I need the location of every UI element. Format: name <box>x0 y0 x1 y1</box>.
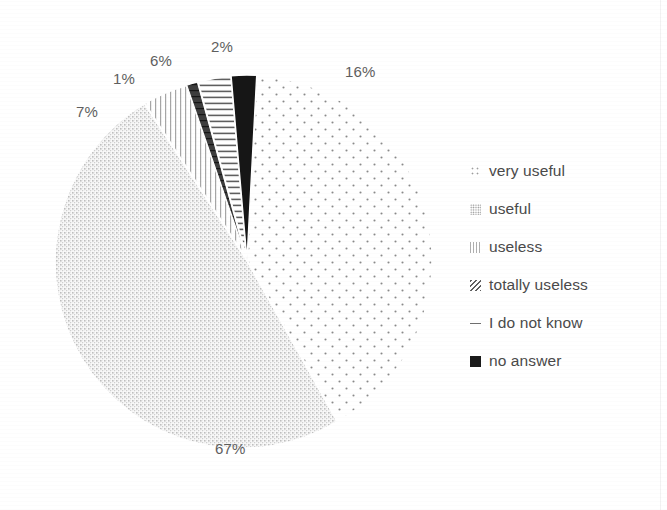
data-label-useless: 7% <box>76 103 98 120</box>
legend-label-very-useful: very useful <box>489 162 565 180</box>
solid-black-swatch-icon <box>470 356 481 367</box>
legend-item-useful: useful <box>470 190 660 228</box>
legend-label-no-answer: no answer <box>489 352 561 370</box>
legend-item-i-do-not-know: I do not know <box>470 304 660 342</box>
diagonal-dark-swatch-icon <box>470 280 481 291</box>
chart-legend: very useful useful useless totally usele… <box>470 152 660 380</box>
data-label-useful: 67% <box>215 440 246 457</box>
dash-line-swatch-icon <box>470 318 481 329</box>
legend-label-totally-useless: totally useless <box>489 276 588 294</box>
pie-chart-figure: 16% 67% 7% 1% 6% 2% very useful useful u… <box>0 0 667 510</box>
legend-item-totally-useless: totally useless <box>470 266 660 304</box>
fine-dots-swatch-icon <box>470 204 481 215</box>
legend-item-very-useful: very useful <box>470 152 660 190</box>
legend-item-useless: useless <box>470 228 660 266</box>
vertical-lines-swatch-icon <box>470 242 481 253</box>
data-label-i-do-not-know: 6% <box>150 52 172 69</box>
data-label-totally-useless: 1% <box>113 70 135 87</box>
legend-label-i-do-not-know: I do not know <box>489 314 583 332</box>
page-edge-line <box>660 0 661 510</box>
legend-item-no-answer: no answer <box>470 342 660 380</box>
data-label-very-useful: 16% <box>345 63 376 80</box>
data-label-no-answer: 2% <box>211 38 233 55</box>
sparse-dots-swatch-icon <box>470 166 481 177</box>
legend-label-useless: useless <box>489 238 542 256</box>
legend-label-useful: useful <box>489 200 531 218</box>
